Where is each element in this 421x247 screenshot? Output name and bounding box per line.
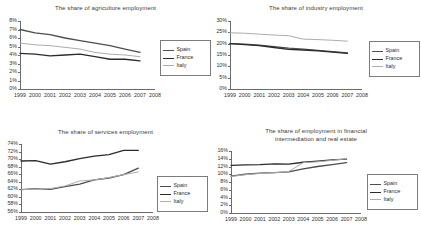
y-axis-tick-label: 25% xyxy=(207,30,227,35)
series-lines xyxy=(230,21,362,90)
chart-title-agriculture: The share of agriculture employment xyxy=(0,4,211,12)
x-axis-tick-label: 2001 xyxy=(44,92,56,98)
series-line-italy xyxy=(230,33,347,41)
legend-swatch-france-icon xyxy=(160,194,171,195)
x-axis-tick-label: 2008 xyxy=(355,216,367,222)
plot-area-industry: 30%25%20%15%10%5%0%199920002001200220032… xyxy=(230,21,362,89)
y-axis-tick-label: 12% xyxy=(208,164,228,169)
chart-title-finance-realestate: The share of employment in financial int… xyxy=(211,127,421,143)
legend-swatch-france-icon xyxy=(163,58,174,59)
legend-label-italy: Italy xyxy=(384,197,394,202)
chart-title-line-1: The share of employment in financial xyxy=(211,127,421,135)
y-axis-tick-label: 6% xyxy=(0,35,17,40)
legend-swatch-italy-icon xyxy=(163,65,174,66)
legend-item-italy[interactable]: Italy xyxy=(370,197,414,202)
chart-title-industry: The share of industry employment xyxy=(211,4,421,12)
chart-title-services: The share of services employment xyxy=(0,128,211,136)
legend-item-spain[interactable]: Spain xyxy=(160,183,204,188)
legend-item-france[interactable]: France xyxy=(372,56,416,61)
legend-label-france: France xyxy=(386,56,403,61)
legend-item-spain[interactable]: Spain xyxy=(163,47,207,52)
x-axis-tick-label: 1999 xyxy=(15,215,27,221)
legend-item-france[interactable]: France xyxy=(160,191,204,196)
legend-label-france: France xyxy=(384,189,401,194)
legend-item-italy[interactable]: Italy xyxy=(160,199,204,204)
x-axis-tick-label: 2007 xyxy=(134,92,146,98)
y-axis-tick-label: 60% xyxy=(0,194,18,199)
legend-swatch-italy-icon xyxy=(372,66,383,67)
chart-grid: The share of agriculture employment 8%7%… xyxy=(0,0,421,247)
legend-swatch-italy-icon xyxy=(370,199,381,200)
x-axis-tick-label: 2006 xyxy=(119,92,131,98)
x-axis-tick-label: 1999 xyxy=(224,92,236,98)
x-axis-tick-label: 2005 xyxy=(312,92,324,98)
legend-item-italy[interactable]: Italy xyxy=(372,64,416,69)
y-axis-tick-label: 2% xyxy=(208,203,228,208)
x-axis-tick-label: 2007 xyxy=(341,216,353,222)
y-axis-tick-label: 74% xyxy=(0,141,18,146)
y-axis-tick-label: 4% xyxy=(0,52,17,57)
y-axis-tick-label: 10% xyxy=(207,64,227,69)
x-axis-tick-label: 2002 xyxy=(59,215,71,221)
y-axis-tick-label: 72% xyxy=(0,149,18,154)
x-axis-tick-label: 2005 xyxy=(104,92,116,98)
x-axis-tick-label: 2006 xyxy=(327,92,339,98)
chart-panel-services: The share of services employment 74%72%7… xyxy=(0,124,211,247)
x-axis-tick-label: 2006 xyxy=(118,215,130,221)
y-axis-tick-label: 66% xyxy=(0,172,18,177)
legend-label-france: France xyxy=(177,55,194,60)
y-axis-tick-label: 20% xyxy=(207,41,227,46)
x-axis-tick-label: 2000 xyxy=(29,92,41,98)
plot-area-agriculture: 8%7%6%5%4%3%2%1%0%1999200020012002200320… xyxy=(20,21,155,89)
legend-label-spain: Spain xyxy=(384,181,398,186)
legend-swatch-spain-icon xyxy=(370,184,381,185)
x-axis-tick-label: 2004 xyxy=(297,216,309,222)
y-axis-tick-label: 5% xyxy=(207,75,227,80)
legend-item-italy[interactable]: Italy xyxy=(163,63,207,68)
legend-swatch-france-icon xyxy=(370,192,381,193)
legend-item-france[interactable]: France xyxy=(370,189,414,194)
x-axis-tick-label: 2004 xyxy=(89,92,101,98)
x-axis-tick-label: 2008 xyxy=(147,215,159,221)
y-axis-tick-label: 2% xyxy=(0,69,17,74)
y-axis-tick-label: 7% xyxy=(0,27,17,32)
legend-item-spain[interactable]: Spain xyxy=(372,48,416,53)
x-axis-tick-label: 2003 xyxy=(283,92,295,98)
x-axis-tick-label: 2005 xyxy=(103,215,115,221)
y-axis-tick-label: 0% xyxy=(208,210,228,215)
y-axis-tick-label: 0% xyxy=(0,86,17,91)
y-axis-tick-label: 30% xyxy=(207,18,227,23)
x-axis-tick-label: 1999 xyxy=(14,92,26,98)
x-axis-tick-label: 2004 xyxy=(297,92,309,98)
chart-panel-industry: The share of industry employment 30%25%2… xyxy=(211,0,421,124)
y-axis-tick-label: 1% xyxy=(0,78,17,83)
legend-label-italy: Italy xyxy=(177,63,187,68)
y-axis-tick-label: 8% xyxy=(0,18,17,23)
y-axis-tick-label: 16% xyxy=(208,148,228,153)
x-axis-tick-label: 2000 xyxy=(30,215,42,221)
x-axis-tick-label: 2007 xyxy=(341,92,353,98)
x-axis-tick-label: 2005 xyxy=(312,216,324,222)
x-axis-tick-label: 2003 xyxy=(283,216,295,222)
legend-swatch-france-icon xyxy=(372,59,383,60)
chart-legend[interactable]: SpainFranceItaly xyxy=(157,176,208,212)
plot-area-finance-realestate: 16%14%12%10%8%6%4%2%0%199920002001200220… xyxy=(231,151,361,213)
legend-swatch-italy-icon xyxy=(160,201,171,202)
x-axis-tick-label: 1999 xyxy=(225,216,237,222)
x-axis-tick-label: 2008 xyxy=(356,92,368,98)
x-axis-tick-label: 2008 xyxy=(149,92,161,98)
x-axis-tick-label: 2000 xyxy=(239,92,251,98)
chart-legend[interactable]: SpainFranceItaly xyxy=(160,40,211,76)
series-lines xyxy=(231,151,361,214)
x-axis-tick-label: 2003 xyxy=(74,215,86,221)
y-axis-tick-label: 3% xyxy=(0,61,17,66)
x-axis-tick-label: 2000 xyxy=(240,216,252,222)
legend-item-france[interactable]: France xyxy=(163,55,207,60)
x-axis-tick-label: 2002 xyxy=(268,216,280,222)
chart-legend[interactable]: SpainFranceItaly xyxy=(367,174,418,210)
x-axis-tick-label: 2001 xyxy=(253,92,265,98)
y-axis-tick-label: 8% xyxy=(208,179,228,184)
legend-item-spain[interactable]: Spain xyxy=(370,181,414,186)
x-axis-tick-label: 2001 xyxy=(254,216,266,222)
chart-legend[interactable]: SpainFranceItaly xyxy=(369,41,420,77)
